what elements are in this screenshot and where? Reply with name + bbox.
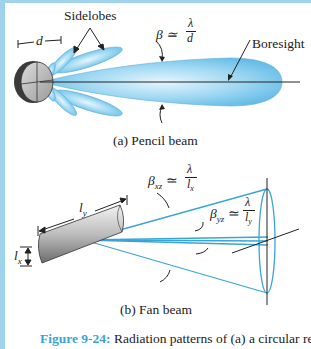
boresight-label: Boresight <box>252 36 305 52</box>
sidelobes-label: Sidelobes <box>64 8 117 24</box>
beta-yz-ly: ly <box>245 210 252 226</box>
ly-label: ly <box>79 200 87 218</box>
figure-number: Figure 9-24: <box>40 331 111 346</box>
caption-text: Radiation patterns of (a) a circular ref… <box>114 331 311 346</box>
beamwidth-symbol: β ≃ <box>156 26 177 43</box>
diameter-label: d <box>36 33 43 49</box>
beta-yz-lambda: λ <box>245 195 250 210</box>
beta-yz-label: βyz ≃ <box>210 205 240 224</box>
beamwidth-lambda: λ <box>188 16 193 31</box>
beta-xz-lx: lx <box>187 177 194 193</box>
beta-xz-label: βxz ≃ <box>148 172 178 191</box>
lx-label: lx <box>14 248 22 266</box>
panel-b-subcaption: (b) Fan beam <box>120 302 192 318</box>
beamwidth-d: d <box>187 31 193 46</box>
lx-dimension <box>20 247 32 266</box>
fan-beam-diagram <box>20 178 299 305</box>
beta-xz-lambda: λ <box>187 162 192 177</box>
panel-a-subcaption: (a) Pencil beam <box>113 133 198 149</box>
figure-caption: Figure 9-24: Radiation patterns of (a) a… <box>40 331 311 347</box>
